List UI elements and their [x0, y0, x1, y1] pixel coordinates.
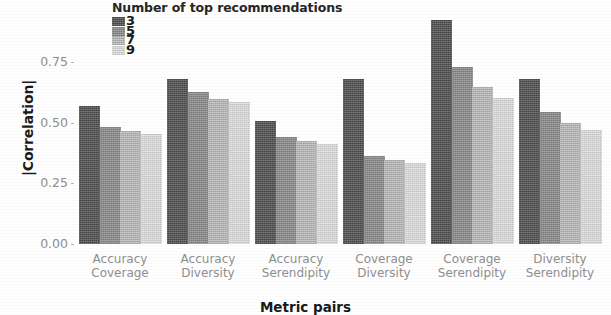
bar-7-group-1	[120, 131, 141, 244]
legend-title: Number of top recommendations	[112, 1, 342, 15]
bar-texture	[188, 92, 209, 244]
x-axis-title: Metric pairs	[0, 299, 611, 315]
y-tick-label: 0.25	[0, 177, 68, 189]
bar-3-group-5	[431, 20, 452, 244]
bar-7-group-5	[472, 87, 493, 244]
bar-3-group-1	[79, 106, 100, 244]
bar-9-group-4	[405, 163, 426, 244]
bar-7-group-6	[560, 123, 581, 244]
bar-5-group-3	[276, 137, 297, 244]
bar-texture	[493, 98, 514, 244]
bar-texture	[141, 134, 162, 244]
bar-9-group-6	[581, 130, 602, 244]
y-tick-mark	[71, 244, 74, 245]
bar-3-group-2	[167, 79, 188, 244]
bar-5-group-5	[452, 67, 473, 244]
bar-texture	[519, 79, 540, 244]
y-tick-mark	[71, 123, 74, 124]
bar-7-group-2	[208, 99, 229, 244]
x-tick-label-line: Diversity	[505, 253, 611, 267]
bar-texture	[581, 130, 602, 244]
bar-texture	[343, 79, 364, 244]
bar-texture	[167, 79, 188, 244]
bar-7-group-4	[384, 160, 405, 244]
bar-texture	[317, 144, 338, 244]
bar-chart: Number of top recommendations 3579 |Corr…	[0, 0, 611, 315]
bar-3-group-3	[255, 121, 276, 244]
bar-9-group-2	[229, 102, 250, 244]
bar-5-group-4	[364, 156, 385, 244]
bar-texture	[472, 87, 493, 244]
bar-texture	[364, 156, 385, 244]
bar-texture	[452, 67, 473, 244]
bar-5-group-6	[540, 112, 561, 244]
y-tick-mark	[71, 62, 74, 63]
bar-texture	[255, 121, 276, 244]
bar-texture	[120, 131, 141, 244]
bar-texture	[229, 102, 250, 244]
bar-9-group-5	[493, 98, 514, 244]
bar-5-group-1	[100, 127, 121, 244]
x-tick-label-line: Serendipity	[505, 267, 611, 281]
bar-texture	[560, 123, 581, 244]
bar-7-group-3	[296, 141, 317, 244]
bar-3-group-4	[343, 79, 364, 244]
bar-5-group-2	[188, 92, 209, 244]
bar-texture	[276, 137, 297, 244]
y-tick-mark	[71, 183, 74, 184]
bar-9-group-1	[141, 134, 162, 244]
bar-texture	[431, 20, 452, 244]
y-tick-label: 0.50	[0, 117, 68, 129]
bar-9-group-3	[317, 144, 338, 244]
x-tick-label: DiversitySerendipity	[505, 253, 611, 280]
bar-texture	[540, 112, 561, 244]
plot-area	[76, 14, 604, 244]
bar-texture	[296, 141, 317, 244]
bar-texture	[100, 127, 121, 244]
bar-texture	[79, 106, 100, 244]
bar-texture	[384, 160, 405, 244]
y-tick-label: 0.75	[0, 56, 68, 68]
y-tick-label: 0.00	[0, 238, 68, 250]
bar-texture	[208, 99, 229, 244]
bar-texture	[405, 163, 426, 244]
bar-3-group-6	[519, 79, 540, 244]
